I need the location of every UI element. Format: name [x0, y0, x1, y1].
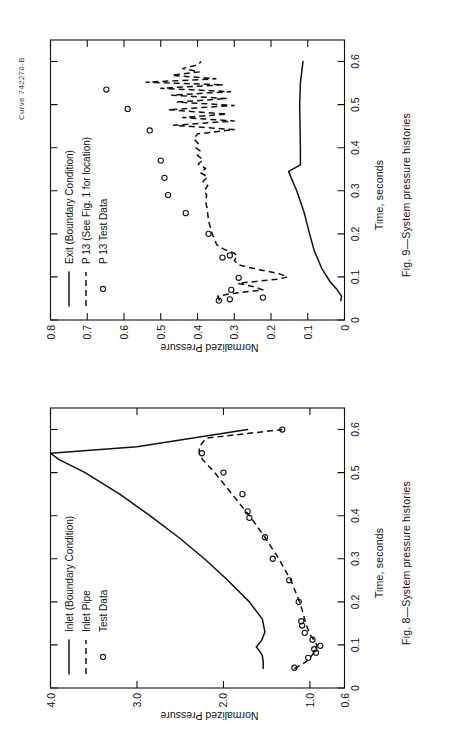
- fig8-series-0: [50, 430, 264, 669]
- fig9-x-tick-label: 0.4: [348, 140, 360, 155]
- fig9-x-axis-title: Time, seconds: [372, 30, 384, 360]
- fig8-y-tick-label: 3.0: [130, 693, 142, 708]
- fig8-x-tick-label: 0.6: [348, 422, 360, 437]
- fig8-data-point: [305, 655, 310, 660]
- fig9-legend-label: Exit (Boundary Condition): [63, 150, 74, 264]
- figure-9-block: Normalized Pressure 00.10.20.30.40.50.60…: [40, 30, 411, 360]
- fig9-legend-label: P 13 (See Fig. 1 for location): [80, 137, 91, 264]
- figure-8-block: Normalized Pressure 00.10.20.30.40.50.60…: [40, 398, 411, 728]
- fig9-data-point: [147, 128, 152, 133]
- fig9-data-point: [183, 211, 188, 216]
- fig8-x-axis-title: Time, seconds: [372, 398, 384, 728]
- fig8-data-point: [199, 451, 204, 456]
- fig8-data-point: [313, 650, 318, 655]
- fig9-data-point: [158, 158, 163, 163]
- fig8-legend-label: Inlet Pipe: [80, 590, 91, 632]
- fig9-y-tick-label: 0.5: [154, 325, 166, 340]
- fig9-data-point: [260, 295, 265, 300]
- fig9-legend-marker-points: [100, 286, 105, 291]
- fig9-series-1: [146, 62, 287, 301]
- fig9-x-tick-label: 0.2: [348, 226, 360, 241]
- fig9-data-point: [165, 192, 170, 197]
- fig8-series-1: [199, 430, 317, 669]
- fig8-data-point: [220, 470, 225, 475]
- fig9-y-tick-label: 0.8: [44, 325, 56, 340]
- fig8-data-point: [270, 556, 275, 561]
- curve-id-label: Curve 742270-B: [16, 57, 25, 120]
- fig9-y-tick-label: 0.2: [265, 325, 277, 340]
- fig9-data-point: [227, 297, 232, 302]
- fig9-data-point: [228, 287, 233, 292]
- fig9-caption: Fig. 9—System pressure histories: [399, 30, 411, 360]
- fig8-y-tick-label: 4.0: [44, 693, 56, 708]
- fig8-x-tick-label: 0.5: [348, 465, 360, 480]
- fig9-x-tick-label: 0.1: [348, 269, 360, 284]
- fig9-data-point: [236, 275, 241, 280]
- fig8-data-point: [239, 492, 244, 497]
- fig8-legend-label: Test Data: [97, 589, 108, 632]
- fig8-caption: Fig. 8—System pressure histories: [399, 398, 411, 728]
- fig8-plot: 00.10.20.30.40.50.60.61.02.03.04.0Inlet …: [40, 398, 370, 728]
- fig9-y-tick-label: 0: [338, 325, 350, 331]
- fig9-y-tick-label: 0.6: [118, 325, 130, 340]
- fig9-data-point: [125, 106, 130, 111]
- fig9-x-tick-label: 0.5: [348, 97, 360, 112]
- fig9-data-point: [103, 87, 108, 92]
- fig8-y-axis-title: Normalized Pressure: [160, 710, 258, 722]
- page-canvas: Curve 742270-B Normalized Pressure 00.10…: [0, 0, 471, 746]
- fig9-series-0: [288, 62, 341, 301]
- fig8-legend-label: Inlet (Boundary Condition): [63, 516, 74, 632]
- fig9-data-point: [219, 255, 224, 260]
- fig9-y-tick-label: 0.7: [81, 325, 93, 340]
- fig8-y-tick-label: 0.6: [338, 693, 350, 708]
- fig8-x-tick-label: 0: [348, 685, 360, 691]
- fig9-y-tick-label: 0.1: [301, 325, 313, 340]
- fig9-x-tick-label: 0.6: [348, 54, 360, 69]
- fig8-x-tick-label: 0.4: [348, 508, 360, 523]
- fig9-x-tick-label: 0.3: [348, 183, 360, 198]
- fig8-legend-marker-points: [100, 654, 105, 659]
- fig9-data-point: [227, 253, 232, 258]
- fig8-x-tick-label: 0.3: [348, 551, 360, 566]
- fig8-x-tick-label: 0.1: [348, 637, 360, 652]
- fig8-data-point: [317, 643, 322, 648]
- fig9-y-tick-label: 0.4: [191, 325, 203, 340]
- fig9-y-axis-title: Normalized Pressure: [160, 342, 258, 354]
- fig9-x-tick-label: 0: [348, 317, 360, 323]
- fig9-data-point: [161, 175, 166, 180]
- fig8-y-tick-label: 2.0: [217, 693, 229, 708]
- fig9-y-tick-label: 0.3: [228, 325, 240, 340]
- fig9-legend-label: P 13 Test Data: [97, 198, 108, 264]
- fig8-x-tick-label: 0.2: [348, 594, 360, 609]
- fig8-y-tick-label: 1.0: [303, 693, 315, 708]
- fig8-data-point: [302, 630, 307, 635]
- fig9-plot: 00.10.20.30.40.50.600.10.20.30.40.50.60.…: [40, 30, 370, 360]
- fig9-data-point: [205, 231, 210, 236]
